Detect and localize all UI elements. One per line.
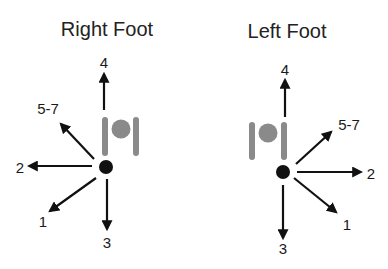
foot-direction-diagram: Right Foot 4 5-7 2 1 3 Left Foot 4 5-7 2… bbox=[0, 0, 388, 269]
left-foot-panel bbox=[249, 80, 361, 238]
left-arrow-1 bbox=[294, 178, 336, 212]
left-label-4: 4 bbox=[281, 61, 289, 78]
right-label-1: 1 bbox=[39, 213, 47, 230]
left-foot-origin-dot bbox=[276, 165, 290, 179]
right-label-4: 4 bbox=[100, 54, 108, 71]
diagram-graphics bbox=[0, 0, 388, 269]
right-foot-symbol-icon bbox=[102, 117, 139, 156]
left-label-3: 3 bbox=[279, 240, 287, 257]
left-label-1: 1 bbox=[343, 216, 351, 233]
left-foot-symbol-icon bbox=[249, 122, 287, 160]
right-foot-title: Right Foot bbox=[61, 18, 153, 41]
right-foot-panel bbox=[29, 74, 139, 229]
left-arrow-5-7 bbox=[296, 132, 331, 164]
right-label-2: 2 bbox=[16, 159, 24, 176]
right-foot-origin-dot bbox=[99, 160, 113, 174]
left-label-5-7: 5-7 bbox=[338, 116, 360, 133]
right-label-3: 3 bbox=[103, 234, 111, 251]
right-label-5-7: 5-7 bbox=[37, 100, 59, 117]
left-foot-title: Left Foot bbox=[248, 20, 327, 43]
left-label-2: 2 bbox=[367, 165, 375, 182]
right-arrow-5-7 bbox=[61, 124, 94, 159]
right-arrow-1 bbox=[50, 178, 96, 211]
